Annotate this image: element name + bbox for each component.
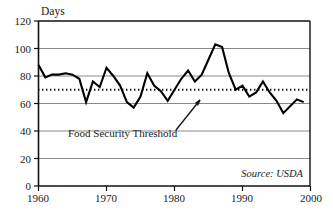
y-tick-label-20: 20 xyxy=(20,153,32,165)
x-tick-label-2000: 2000 xyxy=(300,192,323,204)
line-chart: 120 100 80 60 40 20 0 1960 1970 1980 199… xyxy=(0,0,333,221)
threshold-annotation-label: Food Security Threshold xyxy=(68,127,178,139)
y-tick-label-40: 40 xyxy=(20,125,32,137)
chart-container: 120 100 80 60 40 20 0 1960 1970 1980 199… xyxy=(0,0,333,221)
x-axis-tick-labels: 1960 1970 1980 1990 2000 xyxy=(27,192,323,204)
y-axis-tick-labels: 120 100 80 60 40 20 0 xyxy=(15,15,32,192)
y-tick-label-120: 120 xyxy=(15,15,32,27)
y-tick-label-80: 80 xyxy=(20,70,32,82)
x-tick-label-1990: 1990 xyxy=(231,192,254,204)
y-tick-label-100: 100 xyxy=(15,43,32,55)
gridlines xyxy=(38,49,310,159)
source-label: Source: USDA xyxy=(241,168,303,179)
data-series-line xyxy=(39,44,304,113)
y-axis-ticks xyxy=(34,21,38,186)
y-tick-label-60: 60 xyxy=(20,98,32,110)
x-tick-label-1980: 1980 xyxy=(163,192,186,204)
y-tick-label-0: 0 xyxy=(26,180,32,192)
x-tick-label-1960: 1960 xyxy=(27,192,50,204)
x-tick-label-1970: 1970 xyxy=(95,192,118,204)
annotation-arrow-line xyxy=(176,100,200,130)
y-axis-title: Days xyxy=(41,5,65,18)
